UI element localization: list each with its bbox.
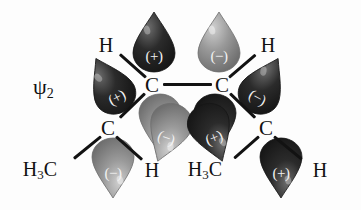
hydrogen-top-right: H xyxy=(261,35,275,55)
hydrogen-top-right-element: H xyxy=(261,34,275,56)
methyl-right: H3C xyxy=(188,159,222,181)
hydrogen-top-left: H xyxy=(99,35,113,55)
methyl-left-carbon: C xyxy=(44,158,57,180)
carbon-right-inner: C xyxy=(215,75,229,96)
carbon-left-inner: C xyxy=(145,75,159,96)
methyl-right-carbon: C xyxy=(209,158,222,180)
hydrogen-top-left-element: H xyxy=(99,34,113,56)
psi-subscript: 2 xyxy=(47,86,54,101)
carbon-right-outer-element: C xyxy=(259,116,273,140)
carbon-left-inner-element: C xyxy=(145,73,159,97)
methyl-left-element: H xyxy=(23,158,37,180)
bond-c-c-central xyxy=(163,83,212,86)
psi-symbol: ψ xyxy=(33,74,47,99)
methyl-left: H3C xyxy=(23,159,57,181)
hydrogen-bottom-right-element: H xyxy=(313,159,327,181)
orbital-diagram-canvas: ψ2 (+)(+)(−)(−)(−)(+)(−)(+)(−)(+) CCCCHH… xyxy=(0,0,361,210)
hydrogen-bottom-right: H xyxy=(313,160,327,180)
carbon-right-inner-element: C xyxy=(215,73,229,97)
lobe-top-right-inner: (−) xyxy=(197,11,241,73)
methyl-right-element: H xyxy=(188,158,202,180)
orbital-label-psi2: ψ2 xyxy=(33,76,54,101)
lobe-top-left-inner: (+) xyxy=(132,11,176,73)
carbon-right-outer: C xyxy=(259,118,273,139)
hydrogen-bottom-left-element: H xyxy=(145,159,159,181)
carbon-left-outer: C xyxy=(101,118,115,139)
hydrogen-bottom-left: H xyxy=(145,160,159,180)
carbon-left-outer-element: C xyxy=(101,116,115,140)
lobe-bottom-right-outer: (+) xyxy=(259,137,303,199)
